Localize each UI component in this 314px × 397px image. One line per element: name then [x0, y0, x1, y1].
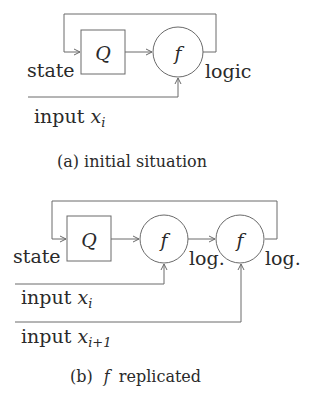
caption-a: (a) initial situation	[57, 152, 207, 171]
panel-b: Q f f state log. log. input xi input xi+…	[13, 201, 301, 386]
state-label: state	[27, 59, 75, 81]
output2-label: log.	[265, 247, 301, 269]
register-label: Q	[81, 229, 97, 251]
output-label: logic	[205, 60, 251, 82]
state-label: state	[13, 245, 61, 267]
output1-label: log.	[189, 247, 225, 269]
input1-wire	[15, 264, 164, 284]
figure: Q f state logic input xi (a) initial sit…	[0, 0, 314, 397]
register-label: Q	[95, 42, 111, 64]
caption-b: (b) f replicated	[70, 367, 201, 386]
input2-label: input xi+1	[21, 325, 111, 350]
input-label: input xi	[34, 105, 105, 130]
panel-a: Q f state logic input xi (a) initial sit…	[27, 14, 251, 171]
input1-label: input xi	[21, 286, 92, 311]
